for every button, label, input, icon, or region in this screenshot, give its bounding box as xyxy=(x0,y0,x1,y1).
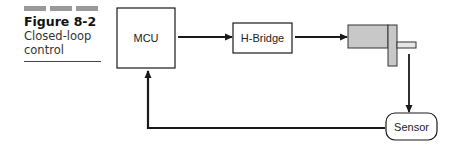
sensor-label: Sensor xyxy=(394,121,429,133)
sensor-block: Sensor xyxy=(386,113,437,140)
mcu-label: MCU xyxy=(133,32,158,44)
hbridge-label: H-Bridge xyxy=(241,32,284,44)
motor-icon xyxy=(348,25,416,66)
mcu-block: MCU xyxy=(117,8,175,68)
hbridge-block: H-Bridge xyxy=(233,23,292,53)
closed-loop-diagram: MCU H-Bridge Sensor xyxy=(0,0,460,149)
arrow-sensor-to-mcu-feedback xyxy=(148,71,385,128)
